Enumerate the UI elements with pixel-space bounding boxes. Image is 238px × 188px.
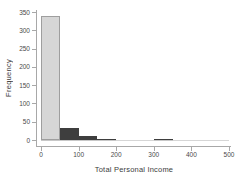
- x-tick: [154, 147, 155, 151]
- x-tick: [191, 147, 192, 151]
- histogram-figure: Frequency Total Personal Income 05010015…: [0, 0, 238, 188]
- histogram-bar: [191, 140, 210, 141]
- x-tick-label: 0: [29, 151, 53, 158]
- x-tick: [41, 147, 42, 151]
- x-tick-label: 500: [217, 151, 238, 158]
- y-tick-label: 100: [8, 100, 30, 107]
- histogram-bar: [135, 140, 154, 141]
- y-tick: [32, 103, 36, 104]
- histogram-bar: [41, 16, 60, 140]
- x-tick: [116, 147, 117, 151]
- y-tick: [32, 67, 36, 68]
- x-tick: [229, 147, 230, 151]
- histogram-bar: [154, 139, 173, 140]
- x-tick: [79, 147, 80, 151]
- x-tick-label: 200: [104, 151, 128, 158]
- y-tick-label: 0: [8, 137, 30, 144]
- y-axis-line: [36, 10, 37, 146]
- y-tick: [32, 12, 36, 13]
- y-tick: [32, 140, 36, 141]
- y-tick-label: 350: [8, 9, 30, 16]
- histogram-bar: [97, 139, 116, 140]
- x-axis-title: Total Personal Income: [36, 165, 232, 174]
- x-tick-label: 100: [67, 151, 91, 158]
- y-tick-label: 250: [8, 45, 30, 52]
- histogram-bar: [60, 128, 79, 140]
- histogram-bar: [173, 140, 192, 141]
- histogram-bar: [116, 140, 135, 141]
- y-tick-label: 300: [8, 27, 30, 34]
- x-tick-label: 300: [142, 151, 166, 158]
- y-tick: [32, 49, 36, 50]
- y-tick: [32, 122, 36, 123]
- y-tick: [32, 30, 36, 31]
- x-tick-label: 400: [179, 151, 203, 158]
- x-axis-line: [36, 146, 231, 147]
- y-tick: [32, 85, 36, 86]
- y-axis-title: Frequency: [2, 28, 14, 128]
- y-tick-label: 50: [8, 118, 30, 125]
- histogram-bar: [79, 136, 98, 140]
- y-tick-label: 200: [8, 63, 30, 70]
- y-tick-label: 150: [8, 82, 30, 89]
- histogram-bar: [210, 140, 229, 141]
